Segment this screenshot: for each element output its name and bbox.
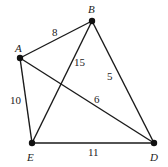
node-e — [29, 140, 35, 146]
edge-weight-a-b: 8 — [52, 26, 58, 38]
edge-weight-b-e: 15 — [74, 56, 86, 68]
edge-weight-a-d: 6 — [94, 93, 100, 105]
edge-b-e — [32, 21, 92, 143]
node-label-e: E — [26, 151, 34, 163]
edge-weight-b-d: 5 — [107, 70, 113, 82]
edge-weight-e-d: 11 — [88, 146, 99, 158]
edge-b-d — [92, 21, 154, 143]
edge-a-e — [20, 58, 32, 143]
node-label-d: D — [149, 151, 158, 163]
node-label-a: A — [14, 42, 22, 54]
node-a — [17, 55, 23, 61]
edge-a-d — [20, 58, 154, 143]
weighted-graph-diagram: 810615511 ABED — [0, 0, 168, 167]
node-b — [89, 18, 95, 24]
edge-weight-a-e: 10 — [10, 94, 22, 106]
node-d — [151, 140, 157, 146]
node-label-b: B — [88, 3, 95, 15]
